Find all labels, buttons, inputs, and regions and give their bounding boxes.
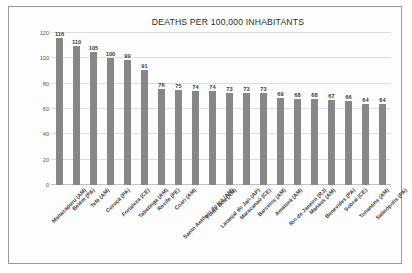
x-label-slot: Benevides (PA)	[323, 185, 340, 263]
bar-rect	[328, 100, 335, 185]
bar-rect	[124, 60, 131, 185]
x-label-slot: Manaus (AM)	[306, 185, 323, 263]
bar-value-label: 64	[368, 97, 398, 103]
bar-rect	[192, 91, 199, 185]
bar-item: 110	[68, 33, 85, 185]
x-label-slot: Belém (PA)	[68, 185, 85, 263]
bar-item: 74	[204, 33, 221, 185]
bar-rect	[226, 93, 233, 185]
y-axis-tick-label: 0	[46, 182, 49, 188]
bar-item: 73	[221, 33, 238, 185]
x-label-slot: Amaturá (AM)	[272, 185, 289, 263]
y-axis-tick-label: 80	[43, 81, 49, 87]
x-label-slot: Recife (PE)	[153, 185, 170, 263]
bar-rect	[311, 99, 318, 185]
x-label-slot: Tabatinga (AM)	[136, 185, 153, 263]
x-label-slot: Curuçá (PA)	[102, 185, 119, 263]
x-label-slot: Sobral (CE)	[340, 185, 357, 263]
bar-item: 69	[272, 33, 289, 185]
bar-item: 68	[306, 33, 323, 185]
x-label-slot: Tefé (AM)	[85, 185, 102, 263]
bar-item: 91	[136, 33, 153, 185]
bar-rect	[56, 38, 63, 185]
bar-item: 99	[119, 33, 136, 185]
bar-series: 1161101051009991767574747373736968686766…	[51, 33, 391, 185]
y-axis-tick-label: 100	[40, 55, 49, 61]
x-label-slot: Fortaleza (CE)	[119, 185, 136, 263]
bar-item: 73	[238, 33, 255, 185]
x-label-slot: Barcelos (AM)	[255, 185, 272, 263]
x-axis-category-label: Salinópolis (PA)	[374, 187, 408, 221]
bar-item: 64	[374, 33, 391, 185]
bar-rect	[362, 104, 369, 185]
y-axis-tick-label: 40	[43, 131, 49, 137]
bar-rect	[107, 58, 114, 185]
bar-item: 64	[357, 33, 374, 185]
x-label-slot: Santo Antônio do Içá (AM)	[187, 185, 204, 263]
y-axis-tick-label: 60	[43, 106, 49, 112]
bar-rect	[260, 93, 267, 185]
plot-area: 1161101051009991767574747373736968686766…	[51, 33, 391, 185]
bar-rect	[345, 101, 352, 185]
bar-item: 66	[340, 33, 357, 185]
bar-rect	[90, 52, 97, 185]
bar-rect	[73, 46, 80, 185]
bar-item: 75	[170, 33, 187, 185]
x-label-slot: Salinópolis (PA)	[374, 185, 391, 263]
chart-title: DEATHS PER 100,000 INHABITANTS	[9, 17, 401, 27]
x-label-slot: Tonantins (AM)	[357, 185, 374, 263]
bar-rect	[379, 104, 386, 185]
x-label-slot: Laranjal do Jari (AP)	[221, 185, 238, 263]
y-axis-tick-labels: 120100806040200	[23, 33, 49, 185]
bar-item: 67	[323, 33, 340, 185]
bar-item: 116	[51, 33, 68, 185]
x-axis-category-labels: Manacapuru (AM)Belém (PA)Tefé (AM)Curuçá…	[51, 185, 391, 263]
x-label-slot: Maracanaú (CE)	[238, 185, 255, 263]
bar-rect	[294, 99, 301, 185]
bar-item: 68	[289, 33, 306, 185]
bar-rect	[158, 89, 165, 185]
chart-frame: DEATHS PER 100,000 INHABITANTS 120100806…	[8, 6, 402, 264]
bar-rect	[277, 98, 284, 185]
bar-item: 74	[187, 33, 204, 185]
bar-rect	[175, 90, 182, 185]
x-label-slot: Rio de Janeiro (RJ)	[289, 185, 306, 263]
bar-item: 76	[153, 33, 170, 185]
bar-item: 73	[255, 33, 272, 185]
bar-rect	[243, 93, 250, 185]
bar-rect	[209, 91, 216, 185]
x-label-slot: Manacapuru (AM)	[51, 185, 68, 263]
y-axis-tick-label: 20	[43, 157, 49, 163]
x-label-slot: Coari (AM)	[170, 185, 187, 263]
